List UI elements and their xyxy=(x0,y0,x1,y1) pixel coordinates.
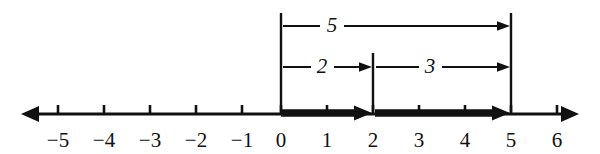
tick-label-0: 0 xyxy=(276,128,287,152)
second-measure: 3 xyxy=(376,54,510,80)
number-line-svg: 5 2 3 xyxy=(0,0,600,154)
tick-label-4: 4 xyxy=(460,128,471,152)
tick-label-neg2: −2 xyxy=(185,128,207,152)
tick-label-6: 6 xyxy=(552,128,563,152)
total-measure-label: 5 xyxy=(327,13,338,37)
tick-label-1: 1 xyxy=(322,128,333,152)
tick-label-neg1: −1 xyxy=(231,128,253,152)
total-measure: 5 xyxy=(283,13,510,39)
second-measure-label: 3 xyxy=(424,54,436,78)
total-measure-arrowhead xyxy=(497,21,510,31)
first-measure: 2 xyxy=(283,54,372,80)
second-jump xyxy=(375,106,510,121)
axis-arrowhead-left xyxy=(21,106,39,122)
tick-label-5: 5 xyxy=(506,128,517,152)
second-measure-arrowhead xyxy=(497,62,510,72)
tick-label-neg3: −3 xyxy=(139,128,161,152)
first-measure-arrowhead xyxy=(359,62,372,72)
number-line-figure: 5 2 3 xyxy=(0,0,600,154)
first-measure-label: 2 xyxy=(317,54,328,78)
tick-label-3: 3 xyxy=(414,128,425,152)
second-jump-arrowhead xyxy=(492,106,510,121)
axis-tick-labels: −5 −4 −3 −2 −1 0 1 2 3 4 5 6 xyxy=(47,128,562,152)
tick-label-neg5: −5 xyxy=(47,128,69,152)
first-jump-arrowhead xyxy=(354,106,372,121)
axis-arrowhead-right xyxy=(561,106,579,122)
tick-label-2: 2 xyxy=(368,128,379,152)
tick-label-neg4: −4 xyxy=(93,128,116,152)
